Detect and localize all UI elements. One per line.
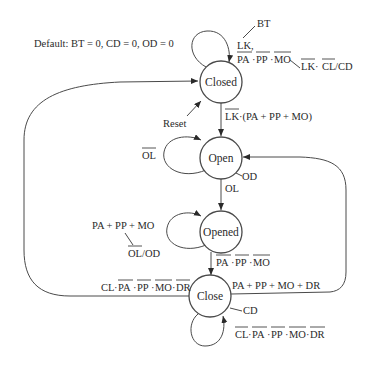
svg-text:·: ·	[133, 282, 137, 293]
svg-text:PA: PA	[237, 54, 250, 65]
svg-text:·: ·	[267, 329, 271, 340]
condition-close-to-closed: CL · PA · PP · MO · DR	[101, 280, 191, 293]
svg-text:/CD: /CD	[335, 61, 353, 72]
svg-text:MO: MO	[155, 282, 172, 293]
svg-text:·: ·	[252, 54, 256, 65]
close-self-loop-arrow	[191, 314, 224, 346]
svg-text:PA: PA	[252, 329, 265, 340]
svg-text:CL: CL	[101, 282, 114, 293]
default-values-note: Default: BT = 0, CD = 0, OD = 0	[34, 38, 174, 49]
svg-text:·(PA + PP + MO): ·(PA + PP + MO)	[239, 111, 312, 123]
close-to-closed-arrow	[24, 81, 198, 296]
condition-lk: LK,	[237, 40, 254, 51]
svg-text:OL: OL	[142, 150, 156, 161]
svg-text:MO: MO	[289, 329, 306, 340]
svg-text:·: ·	[249, 257, 253, 268]
svg-text:PP: PP	[271, 329, 283, 340]
svg-text:DR: DR	[176, 282, 191, 293]
condition-closed-to-open: LK ·(PA + PP + MO)	[225, 109, 312, 123]
output-bt: BT	[257, 18, 271, 29]
svg-text:LK: LK	[225, 111, 239, 122]
reset-arrow	[187, 101, 201, 116]
condition-ol: OL	[225, 183, 239, 194]
svg-text:PP: PP	[235, 257, 247, 268]
svg-text:DR: DR	[310, 329, 325, 340]
svg-text:PP: PP	[256, 54, 268, 65]
svg-text:PP: PP	[137, 282, 149, 293]
condition-opened-to-close: PA · PP · MO	[216, 255, 270, 268]
svg-text:MO: MO	[253, 257, 270, 268]
svg-text:MO: MO	[274, 54, 291, 65]
svg-text:·: ·	[114, 282, 118, 293]
svg-text:LK: LK	[301, 61, 315, 72]
svg-text:PA: PA	[118, 282, 131, 293]
svg-text:CL: CL	[322, 61, 335, 72]
svg-text:OL: OL	[128, 248, 142, 259]
svg-text:·: ·	[285, 329, 289, 340]
state-label-closed: Closed	[205, 76, 237, 88]
svg-text:·: ·	[248, 329, 252, 340]
state-closed: Closed	[192, 31, 242, 103]
state-diagram: Default: BT = 0, CD = 0, OD = 0 Closed B…	[0, 0, 373, 365]
svg-text:·: ·	[315, 61, 319, 72]
state-label-open: Open	[209, 152, 234, 165]
state-open: Open	[164, 137, 242, 179]
svg-text:·: ·	[231, 257, 235, 268]
output-od: OD	[242, 171, 258, 182]
svg-text:CL: CL	[235, 329, 248, 340]
condition-pa-pp-mo-sum: PA + PP + MO	[92, 220, 155, 231]
state-close: Close	[189, 275, 231, 346]
svg-text:·: ·	[151, 282, 155, 293]
output-cd: CD	[243, 305, 258, 316]
output-not-ol-od: OL /OD	[128, 246, 161, 259]
condition-close-self-loop: CL · PA · PP · MO · DR	[235, 327, 325, 340]
state-label-close: Close	[197, 290, 223, 302]
svg-text:·: ·	[270, 54, 274, 65]
condition-pa-pp-mo-closed: PA · PP · MO	[237, 52, 291, 65]
state-label-opened: Opened	[203, 226, 239, 239]
svg-text:·: ·	[306, 329, 310, 340]
condition-not-ol: OL	[142, 148, 156, 161]
condition-close-to-open: PA + PP + MO + DR	[232, 280, 320, 291]
state-opened: Opened	[167, 211, 242, 253]
svg-text:/OD: /OD	[142, 248, 161, 259]
reset-label: Reset	[163, 118, 186, 129]
svg-text:PA: PA	[216, 257, 229, 268]
svg-text:·: ·	[172, 282, 176, 293]
output-lk-cl-cd: LK · CL /CD	[301, 59, 353, 72]
